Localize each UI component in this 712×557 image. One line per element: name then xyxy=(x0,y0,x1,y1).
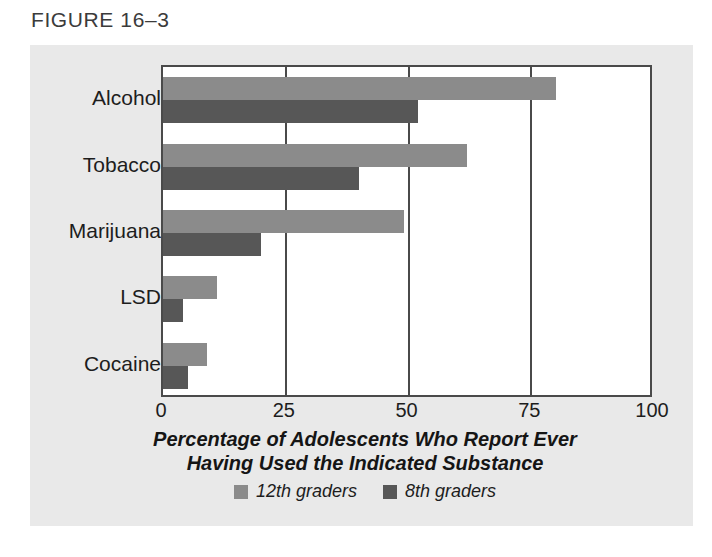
chart-legend: 12th graders8th graders xyxy=(70,481,660,502)
x-tick-label-0: 0 xyxy=(155,399,166,422)
x-axis-ticks: 0255075100 xyxy=(161,399,652,429)
legend-label: 12th graders xyxy=(256,481,357,502)
legend-label: 8th graders xyxy=(405,481,496,502)
bar-cocaine-12th-graders xyxy=(163,343,207,366)
legend-swatch-icon xyxy=(383,485,397,499)
x-tick-label-50: 50 xyxy=(395,399,417,422)
bar-alcohol-8th-graders xyxy=(163,100,418,123)
chart-panel: AlcoholTobaccoMarijuanaLSDCocaine 025507… xyxy=(30,45,693,526)
x-axis-label: Percentage of Adolescents Who Report Eve… xyxy=(70,427,660,475)
x-axis-label-line-1: Percentage of Adolescents Who Report Eve… xyxy=(70,427,660,451)
bar-marijuana-8th-graders xyxy=(163,233,261,256)
bar-marijuana-12th-graders xyxy=(163,210,404,233)
figure-number-label: FIGURE 16–3 xyxy=(31,8,170,32)
x-tick-label-75: 75 xyxy=(518,399,540,422)
bars-layer xyxy=(163,67,650,395)
category-label-alcohol: Alcohol xyxy=(30,86,161,110)
legend-swatch-icon xyxy=(234,485,248,499)
category-axis: AlcoholTobaccoMarijuanaLSDCocaine xyxy=(30,65,161,397)
category-label-tobacco: Tobacco xyxy=(30,153,161,177)
bar-tobacco-12th-graders xyxy=(163,144,467,167)
x-tick-label-25: 25 xyxy=(273,399,295,422)
legend-item-12th-graders: 12th graders xyxy=(234,481,357,502)
bar-tobacco-8th-graders xyxy=(163,167,359,190)
plot-area xyxy=(161,65,652,397)
bar-lsd-8th-graders xyxy=(163,299,183,322)
category-label-cocaine: Cocaine xyxy=(30,352,161,376)
bar-lsd-12th-graders xyxy=(163,276,217,299)
x-axis-label-line-2: Having Used the Indicated Substance xyxy=(70,451,660,475)
category-label-lsd: LSD xyxy=(30,285,161,309)
x-tick-label-100: 100 xyxy=(635,399,668,422)
bar-cocaine-8th-graders xyxy=(163,366,188,389)
legend-item-8th-graders: 8th graders xyxy=(383,481,496,502)
category-label-marijuana: Marijuana xyxy=(30,219,161,243)
bar-alcohol-12th-graders xyxy=(163,77,556,100)
